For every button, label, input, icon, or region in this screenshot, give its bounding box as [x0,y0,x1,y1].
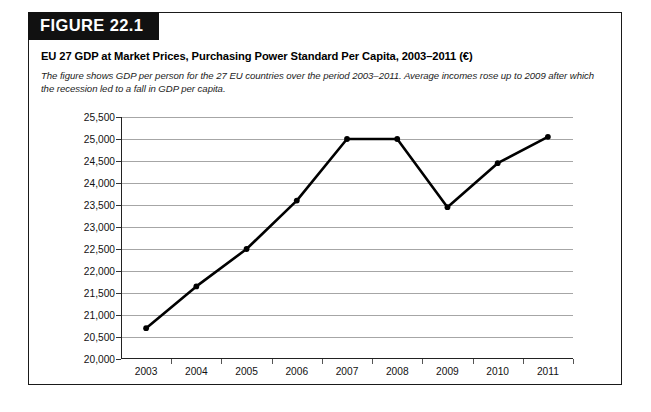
plot-frame: 25,50025,00024,50024,00023,50023,00022,5… [121,117,573,359]
y-axis-tick-label: 23,000 [84,222,115,233]
data-point-marker [244,246,250,252]
x-axis-tick-mark [372,359,373,364]
data-point-marker [394,136,400,142]
figure-card: FIGURE 22.1 EU 27 GDP at Market Prices, … [28,12,622,385]
figure-header: EU 27 GDP at Market Prices, Purchasing P… [41,49,607,96]
figure-number-badge: FIGURE 22.1 [28,12,159,40]
x-axis-tick-mark [573,359,574,364]
data-point-marker [143,325,149,331]
x-axis-tick-label: 2003 [135,366,158,377]
y-axis-tick-label: 21,500 [84,288,115,299]
series-line-chart [121,117,573,359]
x-axis-tick-mark [523,359,524,364]
x-axis-tick-label: 2010 [486,366,509,377]
y-axis-tick-label: 24,000 [84,178,115,189]
x-axis-tick-mark [171,359,172,364]
data-point-marker [495,160,501,166]
x-axis-tick-label: 2009 [436,366,459,377]
data-point-marker [294,198,300,204]
y-axis-tick-label: 23,500 [84,200,115,211]
y-axis-tick-label: 25,000 [84,134,115,145]
data-point-marker [193,284,199,290]
y-axis-tick-label: 22,500 [84,244,115,255]
x-axis-tick-label: 2006 [285,366,308,377]
x-axis-tick-mark [473,359,474,364]
x-axis-tick-label: 2005 [235,366,258,377]
x-axis-tick-label: 2007 [336,366,359,377]
figure-caption: The figure shows GDP per person for the … [41,69,607,97]
x-axis-tick-mark [422,359,423,364]
y-axis-tick-label: 24,500 [84,156,115,167]
y-axis-tick-label: 20,000 [84,354,115,365]
data-point-marker [445,204,451,210]
x-axis-tick-label: 2004 [185,366,208,377]
y-axis-tick-label: 22,000 [84,266,115,277]
y-axis-tick-label: 21,000 [84,310,115,321]
figure-title: EU 27 GDP at Market Prices, Purchasing P… [41,49,607,64]
x-axis-tick-label: 2008 [386,366,409,377]
y-axis-tick-label: 25,500 [84,112,115,123]
chart-area: 25,50025,00024,50024,00023,50023,00022,5… [41,109,609,377]
x-axis-tick-mark [221,359,222,364]
x-axis-tick-mark [322,359,323,364]
series-line [146,137,548,328]
y-axis-tick-mark [116,359,121,360]
data-point-marker [344,136,350,142]
y-axis-tick-label: 20,500 [84,332,115,343]
x-axis-tick-mark [272,359,273,364]
data-point-marker [545,134,551,140]
x-axis-tick-label: 2011 [537,366,559,377]
